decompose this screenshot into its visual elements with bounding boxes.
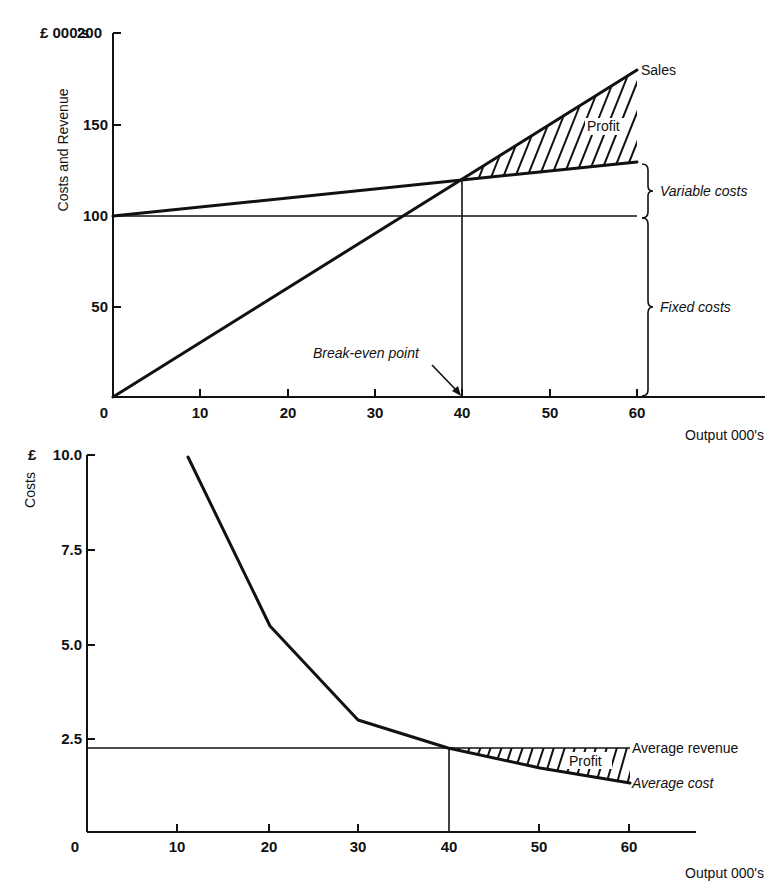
x-tick-60: 60 xyxy=(629,404,646,421)
x-tick-40: 40 xyxy=(441,838,458,855)
profit-hatch-area xyxy=(470,60,670,200)
x-axis-title: Output 000's xyxy=(685,427,764,443)
x-tick-60: 60 xyxy=(621,838,638,855)
x-tick-50: 50 xyxy=(542,404,559,421)
sales-label: Sales xyxy=(641,62,676,78)
y-tick-2-5: 2.5 xyxy=(61,730,82,747)
fixed-costs-label: Fixed costs xyxy=(660,299,731,315)
x-tick-20: 20 xyxy=(280,404,297,421)
y-tick-150: 150 xyxy=(83,116,108,133)
profit-label: Profit xyxy=(569,753,602,769)
average-revenue-label: Average revenue xyxy=(632,740,739,756)
total-costs-line xyxy=(113,162,637,216)
charts-canvas: 200 150 100 50 £ 000's Costs and Revenue… xyxy=(0,0,774,888)
y-unit-label: £ 000's xyxy=(40,24,89,41)
break-even-label: Break-even point xyxy=(313,345,420,361)
x-tick-20: 20 xyxy=(261,838,278,855)
y-tick-50: 50 xyxy=(91,298,108,315)
x-tick-10: 10 xyxy=(192,404,209,421)
x-tick-30: 30 xyxy=(367,404,384,421)
profit-label: Profit xyxy=(587,118,620,134)
y-tick-100: 100 xyxy=(83,207,108,224)
average-cost-chart: 10.0 7.5 5.0 2.5 £ Costs 0 10 20 30 40 5… xyxy=(22,446,764,881)
x-tick-50: 50 xyxy=(531,838,548,855)
x-tick-0: 0 xyxy=(100,404,108,421)
y-axis-title: Costs and Revenue xyxy=(55,88,71,211)
x-tick-40: 40 xyxy=(454,404,471,421)
variable-costs-brace xyxy=(642,164,653,218)
variable-costs-label: Variable costs xyxy=(660,183,747,199)
y-tick-7-5: 7.5 xyxy=(61,541,82,558)
x-axis-title: Output 000's xyxy=(685,865,764,881)
x-tick-30: 30 xyxy=(350,838,367,855)
y-axis-title: Costs xyxy=(22,472,38,508)
y-unit-label: £ xyxy=(28,446,37,463)
break-even-arrow xyxy=(432,365,458,392)
y-tick-5: 5.0 xyxy=(61,636,82,653)
average-cost-curve xyxy=(188,457,630,783)
x-tick-10: 10 xyxy=(169,838,186,855)
y-tick-10: 10.0 xyxy=(53,446,82,463)
average-cost-label: Average cost xyxy=(631,775,715,791)
x-tick-0: 0 xyxy=(71,838,79,855)
fixed-costs-brace xyxy=(642,218,653,396)
break-even-chart: 200 150 100 50 £ 000's Costs and Revenue… xyxy=(40,24,765,443)
